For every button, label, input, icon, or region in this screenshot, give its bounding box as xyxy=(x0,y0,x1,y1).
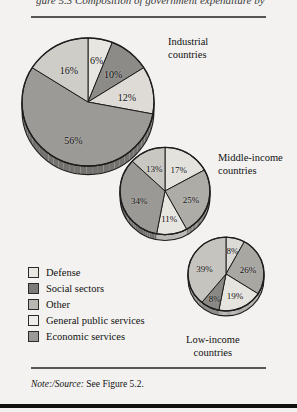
caption-middle-income: Middle-income countries xyxy=(218,152,283,177)
caption-low-income-line2: countries xyxy=(186,347,240,360)
pie-1-slice-label: 34% xyxy=(131,196,148,206)
source-note-label: Note:/Source: xyxy=(31,379,84,389)
caption-low-income-line1: Low-income xyxy=(186,334,240,347)
legend-swatch-economic-services xyxy=(28,331,39,342)
pie-1-slice-label: 13% xyxy=(146,164,163,174)
pie-0-slice-label: 12% xyxy=(118,91,136,102)
legend-swatch-general-public-services xyxy=(28,315,39,326)
caption-industrial-line1: Industrial xyxy=(168,36,208,49)
pie-2-slice-label: 19% xyxy=(227,291,244,301)
middle-rule xyxy=(31,367,266,369)
caption-industrial-line2: countries xyxy=(168,49,208,62)
cropped-figure-title: gure 5.3 Composition of government expen… xyxy=(36,0,266,6)
pie-0-slice-label: 16% xyxy=(60,65,78,76)
legend-label-economic-services: Economic services xyxy=(46,331,125,342)
pie-1-slice-label: 25% xyxy=(183,195,200,205)
legend-item-general-public-services: General public services xyxy=(28,312,145,328)
top-rule xyxy=(31,16,266,18)
bottom-rule xyxy=(0,404,297,408)
legend-label-defense: Defense xyxy=(46,267,80,278)
pie-2-slice-label: 39% xyxy=(196,264,213,274)
pie-0-slice-label: 10% xyxy=(104,69,122,80)
legend-swatch-social-sectors xyxy=(28,283,39,294)
pie-2-slice-label: 8% xyxy=(209,294,221,304)
source-note-text: See Figure 5.2. xyxy=(84,379,144,389)
legend-swatch-defense xyxy=(28,267,39,278)
pie-2-slice-label: 8% xyxy=(227,246,239,256)
caption-middle-income-line1: Middle-income xyxy=(218,152,283,165)
pie-0-slice-label: 6% xyxy=(90,54,103,65)
source-note: Note:/Source: See Figure 5.2. xyxy=(31,379,144,389)
pie-1-slice-label: 11% xyxy=(161,214,177,224)
legend-swatch-other xyxy=(28,299,39,310)
legend-item-economic-services: Economic services xyxy=(28,328,145,344)
caption-middle-income-line2: countries xyxy=(218,165,283,178)
caption-low-income: Low-income countries xyxy=(186,334,240,359)
pie-2-slice-label: 26% xyxy=(240,265,257,275)
pie-chart-low-income: 8%26%19%8%39% xyxy=(180,232,272,324)
legend-label-general-public-services: General public services xyxy=(46,315,145,326)
caption-industrial: Industrial countries xyxy=(168,36,208,61)
pie-1-slice-label: 17% xyxy=(170,165,187,175)
legend: Defense Social sectors Other General pub… xyxy=(28,264,145,344)
legend-item-other: Other xyxy=(28,296,145,312)
figure-page: gure 5.3 Composition of government expen… xyxy=(0,0,297,412)
legend-item-defense: Defense xyxy=(28,264,145,280)
legend-label-social-sectors: Social sectors xyxy=(46,283,104,294)
pie-0-slice-label: 56% xyxy=(64,134,82,145)
legend-item-social-sectors: Social sectors xyxy=(28,280,145,296)
legend-label-other: Other xyxy=(46,299,70,310)
